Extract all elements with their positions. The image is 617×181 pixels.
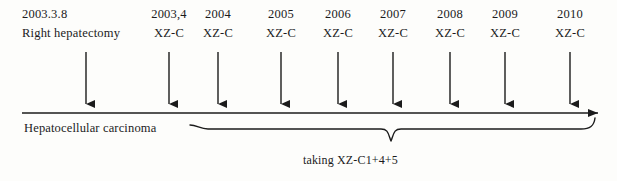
event-treatment: XZ-C [423, 27, 477, 42]
event-label: 2007XZ-C [366, 8, 420, 42]
event-year: 2003.3.8 [22, 8, 120, 23]
diagnosis-label: Hepatocellular carcinoma [24, 121, 156, 136]
event-label: 2003.3.8Right hepatectomy [22, 8, 120, 42]
event-label: 2003,4XZ-C [142, 8, 196, 42]
event-treatment: Right hepatectomy [22, 27, 120, 42]
event-year: 2003,4 [142, 8, 196, 23]
event-label: 2009XZ-C [478, 8, 532, 42]
event-arrow-group [86, 52, 570, 104]
event-year: 2005 [254, 8, 308, 23]
event-treatment: XZ-C [254, 27, 308, 42]
event-label: 2010XZ-C [543, 8, 597, 42]
event-year: 2009 [478, 8, 532, 23]
event-label: 2006XZ-C [311, 8, 365, 42]
brace-caption-label: taking XZ-C1+4+5 [303, 153, 398, 168]
event-treatment: XZ-C [478, 27, 532, 42]
event-label: 2005XZ-C [254, 8, 308, 42]
event-treatment: XZ-C [142, 27, 196, 42]
treatment-period-brace [190, 118, 595, 141]
event-year: 2004 [191, 8, 245, 23]
event-year: 2006 [311, 8, 365, 23]
clinical-timeline-figure: 2003.3.8Right hepatectomy2003,4XZ-C2004X… [0, 0, 617, 181]
event-label: 2008XZ-C [423, 8, 477, 42]
event-label: 2004XZ-C [191, 8, 245, 42]
event-year: 2007 [366, 8, 420, 23]
event-treatment: XZ-C [543, 27, 597, 42]
event-treatment: XZ-C [366, 27, 420, 42]
event-year: 2008 [423, 8, 477, 23]
event-treatment: XZ-C [191, 27, 245, 42]
event-year: 2010 [543, 8, 597, 23]
event-treatment: XZ-C [311, 27, 365, 42]
